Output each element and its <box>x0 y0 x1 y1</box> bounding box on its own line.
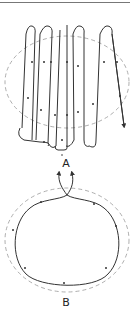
panel-b <box>5 173 129 292</box>
panel-a-label: A <box>56 158 76 170</box>
target-region-boundary-b <box>5 188 129 292</box>
entry-path <box>59 173 67 195</box>
direction-markers-b <box>12 201 117 284</box>
exit-path <box>67 173 73 195</box>
serpentine-scan-path <box>19 25 124 150</box>
panel-b-label: B <box>56 297 76 309</box>
path-end-arrow <box>112 34 124 126</box>
panel-a <box>5 25 129 156</box>
stray-mark <box>61 154 63 156</box>
closed-loop-path <box>15 195 119 285</box>
